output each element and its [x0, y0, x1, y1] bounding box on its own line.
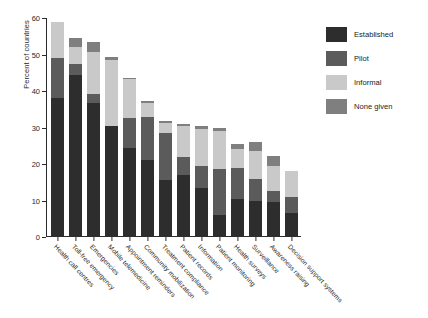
x-axis-tick: [201, 237, 202, 241]
bar-segment[interactable]: [285, 197, 298, 213]
bar-segment[interactable]: [177, 126, 190, 157]
x-axis-tick: [147, 237, 148, 241]
legend-label: Informal: [354, 78, 381, 87]
bar-group: Health call centresToll-free emergencyEm…: [46, 18, 301, 237]
bar-segment[interactable]: [267, 191, 280, 202]
bar-column[interactable]: Health call centres: [51, 18, 64, 237]
chart-legend: EstablishedPilotInformalNone given: [326, 27, 393, 114]
bar-segment[interactable]: [249, 151, 262, 178]
bar-segment[interactable]: [213, 169, 226, 215]
bar-segment[interactable]: [87, 42, 100, 52]
x-axis-tick: [93, 237, 94, 241]
bar-segment[interactable]: [195, 129, 208, 166]
bar-segment[interactable]: [87, 103, 100, 237]
bar-segment[interactable]: [267, 156, 280, 166]
bar-column[interactable]: Mobile telemedicine: [105, 18, 118, 237]
bar-column[interactable]: Treatment compliance: [159, 18, 172, 237]
bar-column[interactable]: Appointment reminders: [123, 18, 136, 237]
bar-segment[interactable]: [159, 180, 172, 237]
bar-segment[interactable]: [51, 58, 64, 98]
y-axis-tick-label: 30: [32, 123, 40, 132]
bar-column[interactable]: Health surveys: [231, 18, 244, 237]
bar-segment[interactable]: [177, 157, 190, 175]
bar-segment[interactable]: [249, 142, 262, 151]
bar-segment[interactable]: [231, 168, 244, 199]
stacked-bar-chart: Percent of countries 0102030405060 Healt…: [0, 0, 428, 318]
bar-segment[interactable]: [123, 118, 136, 148]
bar-column[interactable]: Patient records: [177, 18, 190, 237]
bar-column[interactable]: Toll-free emergency: [69, 18, 82, 237]
y-axis-tick-label: 60: [32, 14, 40, 23]
bar-column[interactable]: Patient monitoring: [213, 18, 226, 237]
bar-segment[interactable]: [105, 60, 118, 127]
bar-segment[interactable]: [105, 126, 118, 237]
y-axis-tick-label: 50: [32, 50, 40, 59]
bar-segment[interactable]: [51, 22, 64, 59]
bar-segment[interactable]: [213, 215, 226, 237]
bar-segment[interactable]: [69, 75, 82, 237]
bar-segment[interactable]: [87, 94, 100, 103]
bar-column[interactable]: Community mobilization: [141, 18, 154, 237]
bar-segment[interactable]: [159, 133, 172, 180]
bar-segment[interactable]: [249, 179, 262, 201]
x-axis-tick: [255, 237, 256, 241]
y-axis-tick-label: 10: [32, 196, 40, 205]
x-axis-tick: [237, 237, 238, 241]
x-axis-tick: [219, 237, 220, 241]
bar-segment[interactable]: [69, 64, 82, 75]
bar-column[interactable]: Decision support systems: [285, 18, 298, 237]
x-axis-tick: [111, 237, 112, 241]
bar-segment[interactable]: [195, 166, 208, 188]
y-axis-tick-label: 20: [32, 160, 40, 169]
bar-segment[interactable]: [159, 123, 172, 133]
y-axis-tick-label: 0: [36, 233, 40, 242]
legend-label: Established: [354, 30, 393, 39]
bar-segment[interactable]: [177, 175, 190, 237]
bar-segment[interactable]: [195, 188, 208, 237]
legend-swatch: [326, 51, 347, 66]
bar-column[interactable]: Awareness raising: [267, 18, 280, 237]
bar-segment[interactable]: [69, 47, 82, 63]
legend-label: None given: [354, 102, 392, 111]
bar-segment[interactable]: [87, 52, 100, 94]
bar-segment[interactable]: [123, 79, 136, 117]
y-axis-title: Percent of countries: [22, 0, 31, 125]
legend-item[interactable]: Established: [326, 27, 393, 42]
legend-item[interactable]: None given: [326, 99, 393, 114]
bar-segment[interactable]: [141, 103, 154, 117]
bar-segment[interactable]: [141, 117, 154, 160]
plot-area: 0102030405060 Health call centresToll-fr…: [46, 18, 301, 237]
bar-segment[interactable]: [267, 202, 280, 237]
legend-swatch: [326, 27, 347, 42]
bar-column[interactable]: Information: [195, 18, 208, 237]
x-axis-tick: [57, 237, 58, 241]
x-axis-tick: [291, 237, 292, 241]
legend-swatch: [326, 75, 347, 90]
bar-column[interactable]: Emergencies: [87, 18, 100, 237]
bar-segment[interactable]: [285, 213, 298, 237]
bar-segment[interactable]: [123, 148, 136, 237]
bar-segment[interactable]: [285, 171, 298, 197]
bar-segment[interactable]: [141, 160, 154, 237]
legend-swatch: [326, 99, 347, 114]
legend-item[interactable]: Informal: [326, 75, 393, 90]
y-axis-tick-label: 40: [32, 87, 40, 96]
bar-segment[interactable]: [51, 98, 64, 237]
x-axis-tick: [165, 237, 166, 241]
y-axis-tick: [42, 237, 46, 238]
bar-segment[interactable]: [231, 149, 244, 167]
legend-label: Pilot: [354, 54, 369, 63]
bar-segment[interactable]: [213, 131, 226, 169]
x-axis-tick: [183, 237, 184, 241]
bar-segment[interactable]: [231, 199, 244, 237]
bar-segment[interactable]: [69, 38, 82, 47]
x-axis-tick: [273, 237, 274, 241]
bar-segment[interactable]: [249, 201, 262, 238]
bar-segment[interactable]: [267, 166, 280, 192]
bar-column[interactable]: Surveillance: [249, 18, 262, 237]
x-axis-tick: [129, 237, 130, 241]
legend-item[interactable]: Pilot: [326, 51, 393, 66]
x-axis-tick: [75, 237, 76, 241]
